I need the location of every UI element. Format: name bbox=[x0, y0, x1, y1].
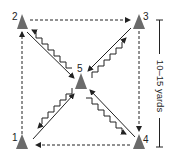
cone-3-label: 3 bbox=[143, 11, 149, 22]
cone-5-label: 5 bbox=[77, 63, 83, 74]
zigzag-path-5-to-3 bbox=[92, 38, 126, 78]
cone-5-icon bbox=[75, 73, 87, 89]
zigzag-path-5-to-2 bbox=[32, 30, 72, 68]
zigzag-path-5-to-4 bbox=[86, 98, 126, 134]
scale-label: 10–15 yards bbox=[155, 60, 166, 113]
cone-4-label: 4 bbox=[143, 134, 149, 145]
cone-2-icon bbox=[17, 14, 28, 29]
straight-path-3-to-5 bbox=[88, 28, 131, 71]
cones bbox=[16, 14, 145, 149]
straight-path-2-to-5 bbox=[27, 32, 74, 78]
cone-1-icon bbox=[16, 134, 28, 149]
cone-2-label: 2 bbox=[12, 11, 18, 22]
straight-path-1-to-5 bbox=[33, 94, 74, 139]
zigzag-path-5-to-1 bbox=[38, 88, 72, 128]
cone-1-label: 1 bbox=[12, 132, 18, 143]
cone-drill-diagram: 2 3 1 4 5 10–15 yards bbox=[0, 0, 175, 160]
straight-path-4-to-5 bbox=[90, 90, 135, 137]
